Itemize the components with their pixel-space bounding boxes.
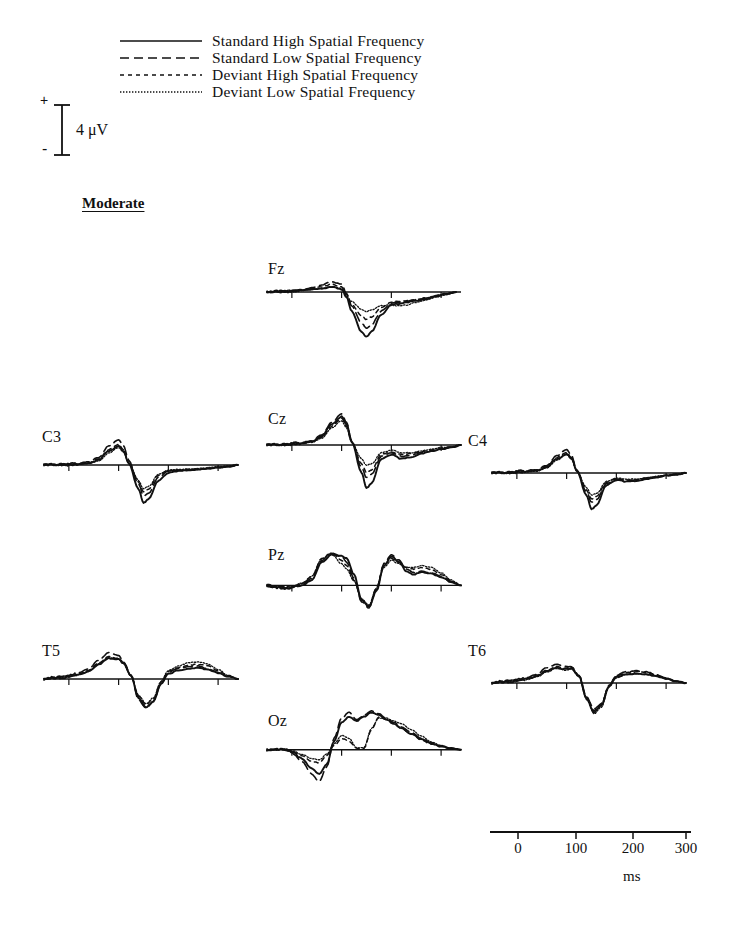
legend-item-label: Standard High Spatial Frequency	[204, 32, 424, 49]
amplitude-scale-label: 4 μV	[76, 121, 108, 139]
legend-item: Standard High Spatial Frequency	[118, 32, 424, 49]
time-axis: 0 100 200 300 ms	[488, 826, 698, 892]
legend-line-dashed-icon	[118, 49, 204, 66]
legend-item-label: Deviant Low Spatial Frequency	[204, 83, 415, 100]
waveform-panel-c3: C3	[42, 432, 242, 542]
waveform-plot	[42, 646, 242, 756]
legend-item: Deviant High Spatial Frequency	[118, 66, 424, 83]
legend-item-label: Standard Low Spatial Frequency	[204, 49, 422, 66]
polarity-negative-label: -	[42, 140, 47, 158]
waveform-panel-fz: Fz	[265, 262, 465, 362]
time-tick-label: 100	[565, 840, 588, 857]
waveform-panel-t6: T6	[490, 650, 690, 760]
legend-item: Standard Low Spatial Frequency	[118, 49, 424, 66]
waveform-plot	[265, 262, 465, 362]
legend-line-solid-icon	[118, 32, 204, 49]
time-tick-label: 200	[622, 840, 645, 857]
time-tick-label: 300	[675, 840, 698, 857]
waveform-plot	[265, 690, 465, 820]
erp-figure: Standard High Spatial Frequency Standard…	[0, 0, 732, 928]
time-axis-unit-label: ms	[623, 868, 641, 885]
legend-item-label: Deviant High Spatial Frequency	[204, 66, 418, 83]
polarity-positive-label: +	[40, 92, 48, 108]
legend-item: Deviant Low Spatial Frequency	[118, 83, 424, 100]
time-tick-label: 0	[514, 840, 522, 857]
condition-title: Moderate	[82, 195, 144, 212]
waveform-panel-t5: T5	[42, 646, 242, 756]
waveform-panel-c4: C4	[490, 440, 690, 550]
legend: Standard High Spatial Frequency Standard…	[118, 32, 424, 100]
channel-label: T6	[468, 642, 486, 660]
waveform-plot	[42, 432, 242, 542]
waveform-panel-cz: Cz	[265, 412, 465, 522]
waveform-plot	[490, 440, 690, 550]
waveform-plot	[265, 548, 465, 658]
waveform-panel-oz: Oz	[265, 690, 465, 820]
waveform-panel-pz: Pz	[265, 548, 465, 658]
legend-line-dotted-icon	[118, 66, 204, 83]
channel-label: C4	[468, 432, 487, 450]
waveform-plot	[265, 412, 465, 522]
amplitude-scale-bar: + - 4 μV	[40, 96, 160, 168]
waveform-plot	[490, 650, 690, 760]
